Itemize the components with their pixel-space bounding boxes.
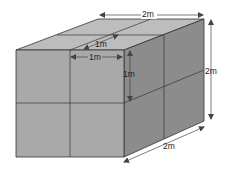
cube-diagram: 2m 2m 2m 1m 1m 1m <box>0 0 230 170</box>
unit-depth-label: 1m <box>95 39 107 49</box>
unit-width-label: 1m <box>89 52 101 62</box>
unit-height-label: 1m <box>123 69 135 79</box>
right-height-label: 2m <box>205 66 217 76</box>
top-width-label: 2m <box>142 9 154 19</box>
bottom-depth-label: 2m <box>163 141 175 151</box>
